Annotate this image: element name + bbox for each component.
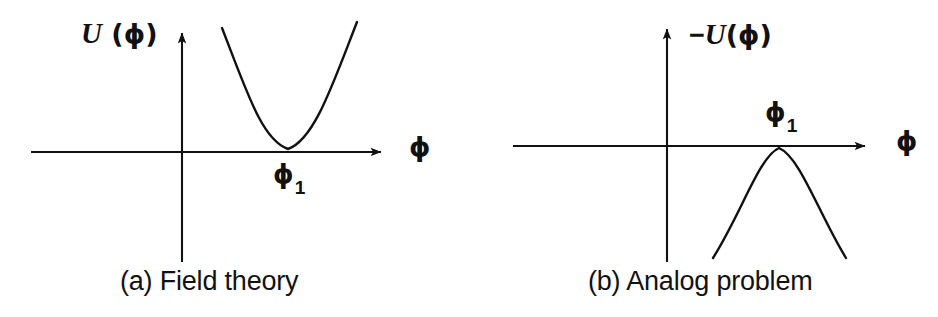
panel-b-axes — [513, 29, 865, 262]
panel-b-y-axis-label-argument: (ϕ) — [726, 19, 772, 50]
panel-b-maximum-symbol: ϕ — [765, 97, 786, 127]
panel-a-y-axis-label-argument: (ϕ) — [102, 18, 158, 49]
figure-container: U (ϕ) ϕ ϕ1 (a) Field theory −U(ϕ) ϕ ϕ1 (… — [0, 0, 938, 317]
panel-b-y-axis-label: −U(ϕ) — [689, 20, 772, 49]
panel-a-minimum-symbol: ϕ — [273, 159, 294, 189]
panel-b-maximum-subscript: 1 — [787, 115, 798, 136]
panel-b-parabola-curve — [713, 148, 846, 258]
panel-a-y-axis-label: U (ϕ) — [81, 19, 158, 48]
panel-a-x-axis-label: ϕ — [409, 133, 431, 160]
panel-a-minimum-subscript: 1 — [295, 177, 306, 198]
panel-b-x-axis-label: ϕ — [896, 127, 918, 154]
panel-a-y-axis-label-function: U — [81, 17, 102, 49]
panel-a-minimum-label: ϕ1 — [273, 161, 304, 192]
panel-a-caption: (a) Field theory — [120, 268, 298, 295]
panel-a-axes — [31, 33, 381, 262]
panel-b-caption: (b) Analog problem — [588, 268, 813, 295]
panel-b-y-axis-label-sign: − — [689, 20, 705, 50]
panel-a-parabola-curve — [222, 22, 357, 149]
panel-b-maximum-label: ϕ1 — [765, 99, 796, 130]
panel-b-y-axis-label-function: U — [705, 18, 726, 50]
